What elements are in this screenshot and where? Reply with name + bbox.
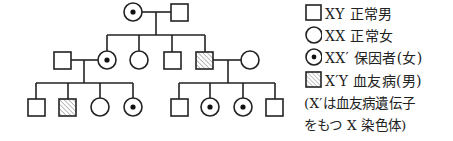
square-hatched-icon bbox=[300, 70, 322, 90]
legend-label: XX 正常女 bbox=[325, 25, 393, 45]
individual-III-4-carrier-female bbox=[124, 98, 142, 116]
individual-III-1-normal-male bbox=[28, 99, 45, 116]
legend-item-carrier-female: XX′ 保因者(女) bbox=[300, 47, 423, 67]
individual-II-2-normal-female bbox=[130, 51, 148, 69]
individual-III-7-carrier-female bbox=[234, 98, 252, 116]
legend-label: XY 正常男 bbox=[325, 3, 392, 23]
legend-label: XX′ 保因者(女) bbox=[325, 47, 423, 67]
legend: XY 正常男 XX 正常女 XX′ 保因者(女) X′Y 血友病(男) (X′は… bbox=[300, 0, 453, 141]
legend-note-line-1: (X′は血友病遺伝子 bbox=[304, 92, 415, 112]
individual-III-2-affected-male bbox=[59, 99, 76, 116]
individual-II-spouse2-normal-female bbox=[241, 51, 259, 69]
legend-item-normal-female: XX 正常女 bbox=[300, 25, 393, 45]
individual-I-2-normal-male bbox=[171, 4, 188, 21]
pedigree-chart bbox=[0, 0, 300, 141]
legend-item-normal-male: XY 正常男 bbox=[300, 3, 392, 23]
individual-III-5-normal-male bbox=[171, 99, 188, 116]
circle-empty-icon bbox=[300, 25, 322, 45]
square-empty-icon bbox=[300, 3, 322, 23]
individual-III-8-normal-male bbox=[266, 99, 283, 116]
legend-item-affected-male: X′Y 血友病(男) bbox=[300, 70, 422, 90]
individual-I-1-carrier-female bbox=[124, 3, 142, 21]
individual-III-3-normal-female bbox=[91, 98, 109, 116]
individual-II-4-affected-male bbox=[196, 52, 213, 69]
legend-label: X′Y 血友病(男) bbox=[325, 70, 422, 90]
circle-dot-icon bbox=[300, 47, 322, 67]
individual-II-3-normal-male bbox=[164, 52, 181, 69]
legend-note-line-2: をもつ X 染色体) bbox=[304, 114, 406, 134]
individual-II-spouse1-normal-male bbox=[54, 52, 71, 69]
individual-III-6-carrier-female bbox=[201, 98, 219, 116]
individual-II-1-carrier-female bbox=[98, 51, 116, 69]
